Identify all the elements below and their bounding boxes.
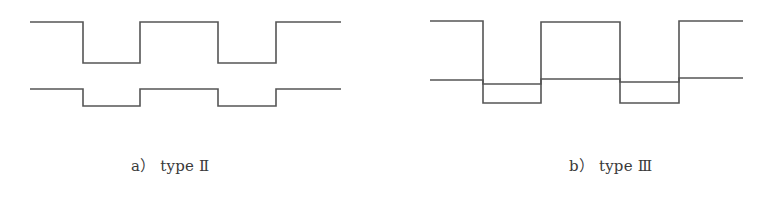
panel-b-large-waveform — [430, 21, 743, 103]
panel-b-small-waveform — [430, 78, 743, 84]
panel-a-upper-waveform — [30, 22, 341, 63]
panel-a-type-ii — [30, 22, 341, 106]
panel-a-caption: a） type Ⅱ — [131, 154, 209, 175]
panel-a-lower-waveform — [30, 89, 341, 106]
panel-b-caption: b） type Ⅲ — [569, 154, 652, 175]
panel-b-type-iii — [430, 21, 743, 103]
